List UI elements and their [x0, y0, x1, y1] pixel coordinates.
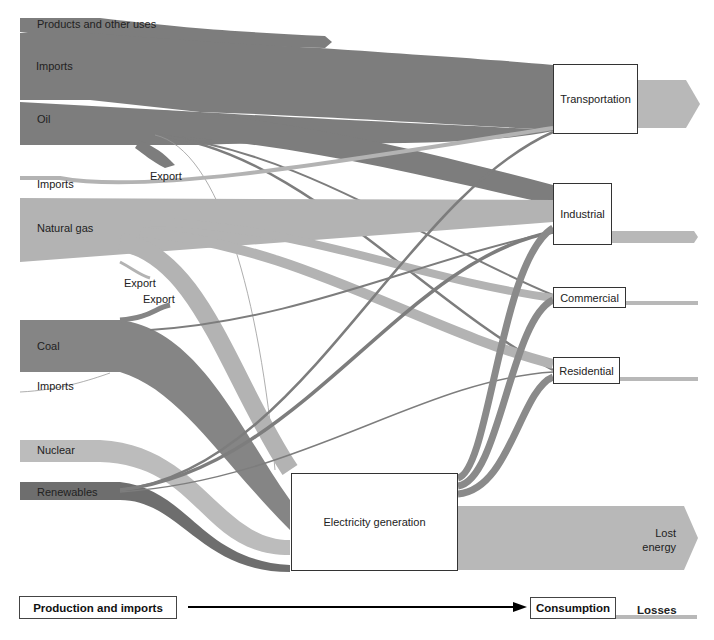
legend-production: Production and imports	[19, 596, 177, 619]
label-gas-export: Export	[124, 277, 156, 289]
node-residential: Residential	[553, 357, 620, 384]
label-nuclear: Nuclear	[37, 444, 75, 456]
flow-industrial-loss	[612, 231, 698, 243]
legend-losses: Losses	[637, 604, 677, 616]
flow-transport-loss	[638, 80, 700, 128]
label-coal: Coal	[37, 340, 60, 352]
label-oil: Oil	[37, 113, 50, 125]
label-natural-gas: Natural gas	[37, 222, 93, 234]
legend-consumption: Consumption	[530, 597, 616, 619]
flow-coal-export	[120, 305, 170, 320]
label-oil-export: Export	[150, 170, 182, 182]
label-renewables: Renewables	[37, 486, 98, 498]
node-electricity-generation: Electricity generation	[291, 473, 458, 571]
label-coal-export: Export	[143, 293, 175, 305]
legend-arrow-head	[513, 602, 527, 612]
label-oil-imports: Imports	[36, 60, 73, 72]
label-lost-energy: Lost energy	[636, 526, 676, 554]
node-commercial: Commercial	[553, 287, 626, 308]
label-coal-imports: Imports	[37, 380, 74, 392]
node-industrial: Industrial	[553, 183, 612, 245]
label-oil-products: Products and other uses	[37, 18, 156, 30]
label-gas-imports: Imports	[37, 178, 74, 190]
node-transportation: Transportation	[553, 64, 638, 134]
flow-gas-export	[120, 262, 150, 278]
